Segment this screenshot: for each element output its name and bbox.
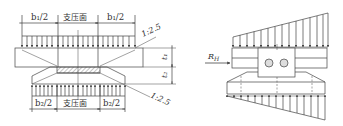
dim-label-b2-half-left: b₂/2 [35, 98, 52, 108]
right-diagram [205, 13, 328, 120]
bearing-diagram-canvas: b₁/2 支压面 b₁/2 b₂/2 支压面 b₂/2 1:2.5 1:2.5 … [0, 0, 343, 126]
bearing-pad [57, 67, 100, 73]
uniform-up-reaction-arrows [32, 85, 125, 96]
thickness-label-t1: t₁ [160, 54, 169, 60]
bolt-right [280, 59, 288, 67]
dim-label-bearing-face-bottom: 支压面 [63, 98, 87, 108]
slope-label-bottom: 1:2.5 [149, 91, 171, 108]
slope-leader-top [135, 37, 156, 48]
thickness-label-t2: t₂ [160, 72, 169, 78]
slope-label-top: 1:2.5 [140, 22, 162, 39]
triangular-load-envelope [233, 13, 328, 37]
bearing-block [258, 48, 295, 77]
dim-label-b1-half-left: b₁/2 [31, 12, 48, 22]
dim-label-b2-half-right: b₂/2 [103, 98, 120, 108]
triangular-down-load-arrows [233, 13, 328, 47]
upper-plate [15, 48, 143, 67]
spread-line [32, 73, 57, 84]
dim-label-b1-half-right: b₁/2 [107, 12, 124, 22]
spread-line [22, 50, 57, 66]
spread-line [100, 50, 135, 66]
bolt-left [265, 59, 273, 67]
uniform-down-load-arrows [22, 36, 135, 47]
horizontal-force-label: RH [207, 52, 220, 62]
dim-label-bearing-face-top: 支压面 [63, 12, 87, 22]
